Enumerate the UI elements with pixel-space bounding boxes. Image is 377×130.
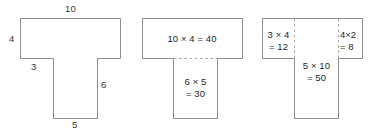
left-height-label: 4 (9, 34, 14, 44)
t-shape-two-part-outline-svg (130, 0, 255, 130)
bottom-width-label: 5 (72, 120, 77, 130)
t-shape-outline-svg (0, 0, 130, 130)
right-rectangle-area-line2: = 8 (340, 41, 364, 53)
bottom-rectangle-area-label: 6 × 5 = 30 (173, 76, 218, 100)
top-rectangle-area-label: 10 × 4 = 40 (142, 33, 242, 45)
left-rectangle-area-line1: 3 × 4 (262, 29, 295, 41)
right-rectangle-area-line1: 4×2 (340, 29, 364, 41)
left-shoulder-label: 3 (31, 62, 36, 72)
bottom-rectangle-area-line2: = 30 (173, 88, 218, 100)
figure-t-shape-split-into-two-rectangles: 10 × 4 = 40 6 × 5 = 30 (130, 0, 255, 130)
geometry-diagram-figure-set: 10 4 3 6 5 10 × 4 = 40 6 × 5 = 30 (0, 0, 377, 130)
figure-t-shape-with-side-lengths: 10 4 3 6 5 (0, 0, 130, 130)
right-stem-height-label: 6 (101, 80, 106, 90)
center-rectangle-area-line2: = 50 (294, 72, 339, 84)
top-width-label: 10 (65, 4, 76, 14)
top-rectangle-area-line1: 10 × 4 = 40 (167, 33, 216, 44)
figure-t-shape-split-into-three-rectangles: 3 × 4 = 12 5 × 10 = 50 4×2 = 8 (255, 0, 377, 130)
left-rectangle-area-label: 3 × 4 = 12 (262, 29, 295, 53)
center-rectangle-area-line1: 5 × 10 (294, 60, 339, 72)
left-rectangle-area-line2: = 12 (262, 41, 295, 53)
center-rectangle-area-label: 5 × 10 = 50 (294, 60, 339, 84)
right-rectangle-area-label: 4×2 = 8 (340, 29, 364, 53)
bottom-rectangle-area-line1: 6 × 5 (173, 76, 218, 88)
